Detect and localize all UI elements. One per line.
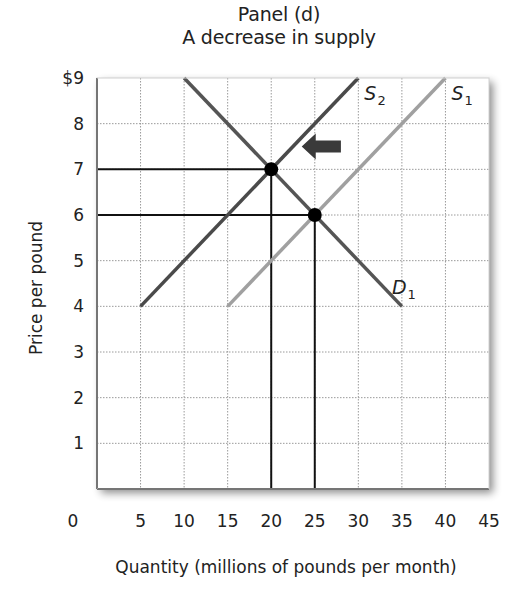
x-tick-label: 20 xyxy=(260,511,282,531)
chart-canvas: $987654321 051015202530354045 D1S1S2 Pri… xyxy=(0,0,522,600)
x-tick-labels: 051015202530354045 xyxy=(68,511,500,531)
y-tick-label: 8 xyxy=(73,114,84,134)
x-tick-label: 25 xyxy=(304,511,326,531)
y-tick-label: $9 xyxy=(62,68,84,88)
x-tick-label: 30 xyxy=(348,511,370,531)
x-tick-label: 45 xyxy=(478,511,500,531)
y-tick-label: 6 xyxy=(73,205,84,225)
y-tick-labels: $987654321 xyxy=(62,68,84,453)
y-tick-label: 1 xyxy=(73,433,84,453)
x-tick-label: 10 xyxy=(173,511,195,531)
y-tick-label: 2 xyxy=(73,388,84,408)
y-tick-label: 5 xyxy=(73,251,84,271)
x-tick-label: 5 xyxy=(135,511,146,531)
y-tick-label: 4 xyxy=(73,296,84,316)
equilibrium-point-new xyxy=(264,162,278,176)
x-tick-label: 40 xyxy=(435,511,457,531)
y-axis-label: Price per pound xyxy=(26,221,46,355)
x-tick-label: 35 xyxy=(391,511,413,531)
x-axis-label: Quantity (millions of pounds per month) xyxy=(115,557,456,577)
x-tick-label: 15 xyxy=(217,511,239,531)
x-tick-label: 0 xyxy=(68,511,79,531)
y-tick-label: 3 xyxy=(73,342,84,362)
plot-area xyxy=(97,78,489,489)
equilibrium-point-initial xyxy=(308,208,322,222)
y-tick-label: 7 xyxy=(73,159,84,179)
